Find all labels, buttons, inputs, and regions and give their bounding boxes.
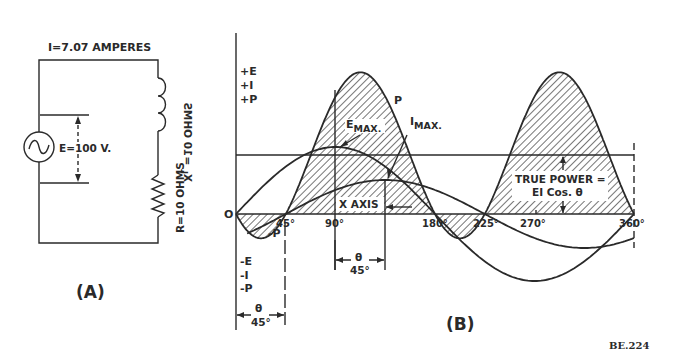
- figure-id: BE.224: [609, 340, 649, 351]
- figure-canvas: I=7.07 AMPERES E=100 V. XL =10 OHMS: [0, 0, 673, 354]
- svg-text:+I: +I: [240, 79, 253, 92]
- svg-text:+P: +P: [240, 93, 257, 106]
- svg-text:θ: θ: [355, 251, 362, 263]
- panel-a-circuit: I=7.07 AMPERES E=100 V. XL =10 OHMS: [24, 41, 194, 302]
- voltage-label: E=100 V.: [59, 142, 111, 154]
- current-label: I=7.07 AMPERES: [48, 41, 151, 54]
- true-power-line1: TRUE POWER =: [515, 173, 606, 185]
- tick-90: 90°: [325, 218, 344, 229]
- theta-dimension-lower: θ 45°: [237, 302, 284, 328]
- svg-text:R=10 OHMS: R=10 OHMS: [174, 162, 186, 233]
- theta-dimension-upper: θ 45°: [336, 251, 384, 276]
- x-axis-label: X AXIS: [339, 198, 378, 210]
- svg-text:-P: -P: [240, 282, 253, 295]
- resistor-label: R=10 OHMS: [174, 162, 186, 233]
- bottom-wire: [39, 162, 158, 243]
- power-label: P: [394, 94, 402, 107]
- svg-text:45°: 45°: [350, 264, 370, 276]
- top-wire: [39, 60, 158, 132]
- svg-text:45°: 45°: [251, 316, 271, 328]
- origin-label: O: [224, 208, 233, 221]
- tick-270: 270°: [520, 218, 546, 229]
- svg-text:-I: -I: [240, 269, 249, 282]
- true-power-line2: EI Cos. θ: [532, 186, 583, 198]
- inductor-icon: [158, 78, 166, 131]
- panel-b-label: (B): [446, 314, 475, 334]
- tick-360: 360°: [619, 218, 645, 229]
- ac-source-icon: [24, 132, 54, 162]
- svg-text:-E: -E: [240, 255, 252, 268]
- panel-a-label: (A): [76, 282, 105, 302]
- svg-text:+E: +E: [240, 65, 257, 78]
- tick-225: 225°: [473, 218, 499, 229]
- tick-180: 180°: [422, 218, 448, 229]
- panel-b-waveforms: +E +I +P -E -I -P -P O 45° 90° 180° 225°…: [224, 33, 645, 334]
- tick-45: 45°: [276, 218, 295, 229]
- negative-legend: -E -I -P: [240, 255, 253, 295]
- positive-legend: +E +I +P: [240, 65, 257, 106]
- resistor-icon: [152, 175, 164, 217]
- svg-text:θ: θ: [255, 302, 262, 314]
